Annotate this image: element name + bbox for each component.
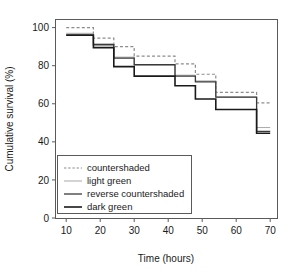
legend-label-countershaded: countershaded (87, 162, 150, 173)
y-tick-label: 0 (43, 213, 49, 224)
legend-label-dark-green: dark green (87, 201, 132, 212)
y-tick-label: 100 (32, 22, 49, 33)
y-tick-label: 80 (38, 60, 50, 71)
y-tick-label: 40 (38, 136, 50, 147)
x-tick-label: 10 (61, 225, 73, 236)
x-tick-label: 70 (265, 225, 277, 236)
survival-chart-figure: 020406080100 10203040506070 Time (hours)… (0, 0, 304, 273)
chart-svg: 020406080100 10203040506070 Time (hours)… (0, 0, 304, 273)
x-tick-label: 40 (163, 225, 175, 236)
x-axis-title: Time (hours) (138, 253, 194, 264)
x-tick-label: 60 (231, 225, 243, 236)
y-tick-label: 20 (38, 175, 50, 186)
x-tick-label: 20 (95, 225, 107, 236)
legend-label-reverse-countershaded: reverse countershaded (87, 188, 184, 199)
legend-label-light-green: light green (87, 175, 131, 186)
chart-legend: countershadedlight greenreverse counters… (58, 156, 192, 214)
y-tick-label: 60 (38, 98, 50, 109)
y-axis-title: Cumulative survival (%) (4, 66, 15, 171)
x-tick-label: 30 (129, 225, 141, 236)
x-tick-label: 50 (197, 225, 209, 236)
